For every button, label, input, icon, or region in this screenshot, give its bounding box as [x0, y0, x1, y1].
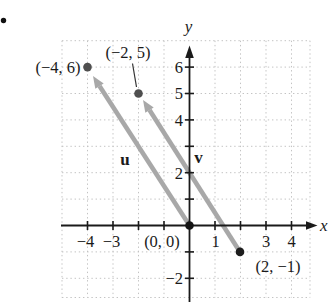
x-axis-arrow-icon: [306, 221, 318, 230]
vector-v-label: v: [194, 148, 203, 167]
y-tick-label-5: 5: [175, 84, 183, 103]
y-tick-label-4: 4: [175, 111, 183, 130]
coordinate-plane: −4 −3 1 3 4 6 5 4 2 −2 x y (−4, 6) (−2, …: [0, 0, 329, 302]
y-tick-label-6: 6: [175, 58, 183, 77]
point-label-neg2-5: (−2, 5): [105, 43, 150, 62]
point-neg4-6: [83, 63, 92, 72]
x-tick-label-1: 1: [211, 232, 219, 251]
x-tick-label-neg4: −4: [77, 232, 95, 251]
y-tick-label-2: 2: [175, 164, 183, 183]
point-neg2-5: [134, 89, 143, 98]
point-2-neg1: [236, 248, 245, 257]
list-bullet-icon: [1, 18, 6, 23]
vector-diagram-figure: −4 −3 1 3 4 6 5 4 2 −2 x y (−4, 6) (−2, …: [0, 0, 329, 302]
y-axis-arrow-icon: [185, 46, 194, 59]
point-label-neg4-6: (−4, 6): [35, 58, 80, 77]
point-origin: [185, 221, 194, 230]
y-tick-label-neg2: −2: [165, 269, 183, 288]
x-tick-label-4: 4: [287, 232, 295, 251]
vector-u-label: u: [120, 150, 129, 169]
x-tick-label-neg3: −3: [103, 232, 121, 251]
x-axis-label: x: [319, 216, 328, 235]
point-label-2-neg1: (2, −1): [255, 257, 300, 276]
x-tick-label-3: 3: [262, 232, 270, 251]
y-axis-label: y: [183, 17, 193, 36]
point-label-origin: (0, 0): [144, 232, 180, 251]
